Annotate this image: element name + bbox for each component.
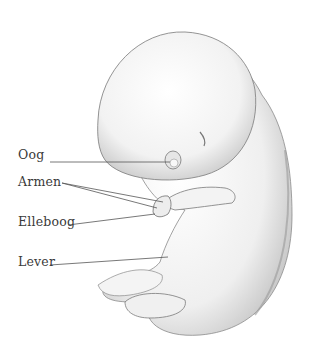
hand — [153, 196, 171, 217]
label-oog: Oog — [18, 147, 44, 162]
label-elleboog: Elleboog — [18, 214, 75, 229]
label-armen: Armen — [18, 174, 61, 189]
label-lever: Lever — [18, 254, 55, 269]
embryo-illustration: Oog Armen Elleboog Lever — [0, 0, 309, 348]
